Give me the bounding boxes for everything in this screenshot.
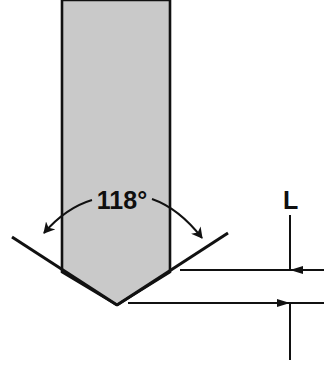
drill-point-diagram: 118° L [0,0,324,367]
length-label: L [283,186,298,214]
diagram-canvas: 118° L [0,0,324,367]
drill-body-shape [62,0,170,305]
point-angle-label: 118° [97,186,147,214]
